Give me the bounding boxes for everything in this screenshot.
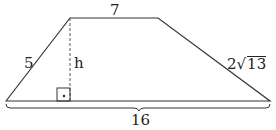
trapezoid-diagram: 7 5 h 2√13 16 bbox=[0, 0, 276, 130]
radicand: 13 bbox=[247, 56, 266, 72]
right-side-label: 2√13 bbox=[227, 56, 266, 72]
top-side-label: 7 bbox=[110, 3, 120, 18]
bottom-brace bbox=[6, 104, 270, 111]
left-side-label: 5 bbox=[24, 56, 34, 71]
right-angle-dot bbox=[63, 95, 65, 97]
height-label: h bbox=[74, 56, 84, 71]
radical-sign: √ bbox=[237, 55, 247, 73]
right-side-coefficient: 2 bbox=[227, 55, 237, 73]
bottom-side-label: 16 bbox=[131, 113, 150, 128]
right-angle-marker bbox=[57, 88, 70, 101]
